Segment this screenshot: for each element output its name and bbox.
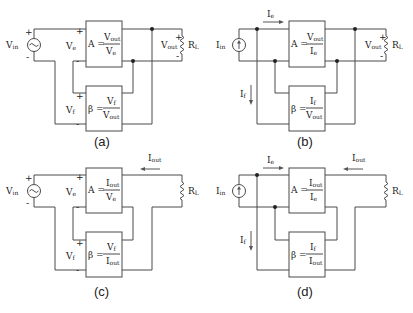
panel-caption: (c) xyxy=(94,284,109,299)
resistor-icon xyxy=(384,182,388,200)
wire xyxy=(73,61,86,93)
source-label: Vin xyxy=(5,186,18,196)
if-label: If xyxy=(240,235,247,245)
arrow-right-icon xyxy=(263,20,284,24)
vf-minus: - xyxy=(76,265,79,275)
load-label: RL xyxy=(188,40,199,50)
ve-plus: + xyxy=(76,172,84,182)
current-source-icon xyxy=(233,39,246,52)
a-lhs: A = xyxy=(87,39,105,49)
wire xyxy=(122,207,133,240)
wire xyxy=(239,51,289,61)
source-label: Iin xyxy=(216,186,225,196)
beta-lhs: β = xyxy=(88,250,104,260)
source-label: Iin xyxy=(216,40,225,50)
arrow-left-icon xyxy=(140,167,160,171)
vf-label: Vf xyxy=(65,251,76,261)
junction-dot xyxy=(255,27,259,31)
ac-voltage-source-icon xyxy=(28,39,41,52)
ve-label: Ve xyxy=(65,41,77,51)
beta-lhs: β = xyxy=(88,104,104,114)
ie-label: Ie xyxy=(267,155,275,165)
if-label: If xyxy=(240,89,247,99)
ve-label: Ve xyxy=(65,187,77,197)
current-source-icon xyxy=(233,185,246,198)
junction-dot xyxy=(150,27,154,31)
iout-label: Iout xyxy=(148,153,162,163)
arrow-right-icon xyxy=(263,166,284,170)
source-minus: - xyxy=(26,52,29,62)
a-lhs: A = xyxy=(290,39,308,49)
source-plus: + xyxy=(25,27,33,37)
load-label: RL xyxy=(392,186,403,196)
ve-plus: + xyxy=(76,26,84,36)
feedback-topologies-diagram: + - Vin + Ve - A = Vout Ve + Vf - β = Vf… xyxy=(0,0,413,313)
panel-caption: (a) xyxy=(94,134,110,149)
wire xyxy=(122,29,152,124)
wire xyxy=(122,61,133,93)
wire xyxy=(73,207,86,240)
arrow-down-icon xyxy=(249,85,253,105)
wire xyxy=(257,175,289,270)
wire xyxy=(239,29,289,38)
wire xyxy=(325,61,337,93)
source-plus: + xyxy=(25,173,33,183)
panel-d: Iin Ie If A = Iout Ie β = If Iout Iout R… xyxy=(216,153,403,299)
vout-minus: - xyxy=(380,51,383,61)
wire xyxy=(122,175,182,182)
vf-minus: - xyxy=(76,119,79,129)
source-label: Vin xyxy=(5,40,18,50)
panel-b: Iin Ie If A = Vout Ie β = If Vout + Vout… xyxy=(216,9,403,149)
resistor-icon xyxy=(180,182,184,200)
load-label: RL xyxy=(392,40,403,50)
junction-dot xyxy=(255,173,259,177)
wire xyxy=(239,175,289,184)
panel-a: + - Vin + Ve - A = Vout Ve + Vf - β = Vf… xyxy=(5,21,199,149)
wire xyxy=(325,207,337,240)
wire xyxy=(325,29,355,124)
vf-label: Vf xyxy=(65,105,76,115)
wire xyxy=(239,197,289,207)
wire xyxy=(257,29,289,124)
junction-dot xyxy=(273,59,277,63)
beta-lhs: β = xyxy=(291,104,307,114)
ie-label: Ie xyxy=(267,9,275,19)
vf-plus: + xyxy=(76,238,84,248)
junction-dot xyxy=(273,205,277,209)
a-lhs: A = xyxy=(290,185,308,195)
wire xyxy=(275,207,289,240)
arrow-left-icon xyxy=(343,167,363,171)
vout-minus: - xyxy=(176,51,179,61)
panel-caption: (d) xyxy=(297,284,313,299)
junction-dot xyxy=(335,59,339,63)
vf-plus: + xyxy=(76,91,84,101)
panel-c: + - Vin + Ve - A = Iout Ve + Vf - β = Vf… xyxy=(5,153,199,299)
load-label: RL xyxy=(188,186,199,196)
arrow-down-icon xyxy=(249,231,253,251)
junction-dot xyxy=(131,59,135,63)
ve-minus: - xyxy=(76,202,79,212)
vout-plus: + xyxy=(379,32,387,42)
panel-caption: (b) xyxy=(297,134,313,149)
source-minus: - xyxy=(26,198,29,208)
vout-plus: + xyxy=(175,32,183,42)
wire xyxy=(325,175,386,182)
iout-label: Iout xyxy=(352,153,366,163)
wire xyxy=(275,61,289,93)
ve-minus: - xyxy=(76,56,79,66)
junction-dot xyxy=(353,27,357,31)
a-lhs: A = xyxy=(87,185,105,195)
wire xyxy=(325,200,386,270)
beta-lhs: β = xyxy=(291,250,307,260)
ac-voltage-source-icon xyxy=(28,185,41,198)
wire xyxy=(122,200,182,270)
